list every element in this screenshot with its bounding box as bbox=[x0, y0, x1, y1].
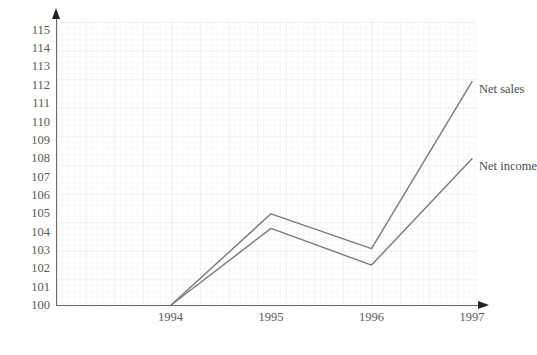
series-label-net-income: Net income bbox=[479, 160, 537, 173]
line-net-sales bbox=[171, 82, 473, 306]
series-label-net-sales: Net sales bbox=[479, 83, 524, 96]
line-net-income bbox=[171, 159, 473, 306]
